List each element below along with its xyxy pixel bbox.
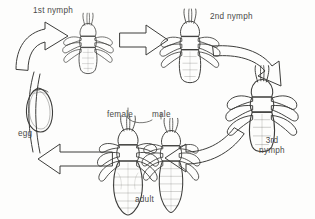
label-male: male xyxy=(152,110,171,119)
arrow-adult-to-egg xyxy=(38,144,112,174)
label-female: female xyxy=(107,110,133,119)
label-egg: egg xyxy=(18,129,32,138)
label-adult: adult xyxy=(135,195,154,204)
label-1st-nymph: 1st nymph xyxy=(33,6,73,15)
arrow-egg-to-nymph1 xyxy=(16,22,68,70)
label-2nd-nymph: 2nd nymph xyxy=(210,12,253,21)
egg-illustration xyxy=(26,72,52,153)
label-3rd-nymph: 3rd nymph xyxy=(255,136,289,155)
nymph1-illustration xyxy=(63,13,114,73)
louse-life-cycle-diagram: 1st nymph 2nd nymph 3rd nymph female mal… xyxy=(0,0,315,219)
arrow-nymph2-to-nymph3 xyxy=(213,46,281,86)
